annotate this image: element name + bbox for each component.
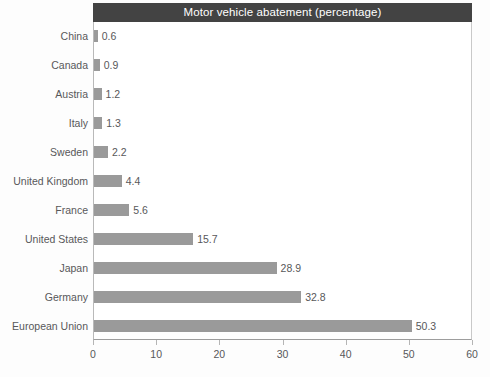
- bar: [94, 88, 102, 100]
- category-label: Japan: [0, 262, 88, 274]
- bar-row: 15.7: [94, 233, 473, 245]
- bar: [94, 291, 301, 303]
- bar-row: 1.2: [94, 88, 473, 100]
- category-label: Italy: [0, 117, 88, 129]
- bar-row: 2.2: [94, 146, 473, 158]
- bar-value-label: 1.2: [102, 88, 121, 100]
- x-tick-label: 50: [403, 348, 415, 360]
- bar-value-label: 1.3: [102, 117, 121, 129]
- bar-chart: Motor vehicle abatement (percentage) 0.6…: [0, 0, 490, 377]
- bar: [94, 262, 277, 274]
- category-label: Sweden: [0, 146, 88, 158]
- bar-row: 28.9: [94, 262, 473, 274]
- category-label: United States: [0, 233, 88, 245]
- chart-title: Motor vehicle abatement (percentage): [93, 3, 472, 22]
- bar: [94, 146, 108, 158]
- bar-value-label: 0.6: [98, 30, 117, 42]
- x-tick-mark: [472, 340, 473, 345]
- x-tick-mark: [283, 340, 284, 345]
- bar: [94, 175, 122, 187]
- bar: [94, 320, 412, 332]
- x-tick-mark: [156, 340, 157, 345]
- bar: [94, 117, 102, 129]
- bar-value-label: 0.9: [100, 59, 119, 71]
- bar-row: 1.3: [94, 117, 473, 129]
- x-tick-mark: [346, 340, 347, 345]
- bar-value-label: 50.3: [412, 320, 436, 332]
- bar-value-label: 15.7: [193, 233, 217, 245]
- bar-row: 4.4: [94, 175, 473, 187]
- category-label: Austria: [0, 88, 88, 100]
- bar-value-label: 4.4: [122, 175, 141, 187]
- x-axis: 0102030405060: [93, 340, 473, 370]
- bar-row: 5.6: [94, 204, 473, 216]
- x-tick-label: 10: [150, 348, 162, 360]
- plot-area: 0.60.91.21.32.24.45.615.728.932.850.3: [93, 22, 472, 340]
- category-axis-labels: ChinaCanadaAustriaItalySwedenUnited King…: [0, 22, 88, 340]
- category-label: Canada: [0, 59, 88, 71]
- x-tick-mark: [409, 340, 410, 345]
- bar-row: 0.9: [94, 59, 473, 71]
- bar: [94, 233, 193, 245]
- x-tick-mark: [93, 340, 94, 345]
- category-label: European Union: [0, 320, 88, 332]
- bar-value-label: 2.2: [108, 146, 127, 158]
- x-tick-label: 40: [340, 348, 352, 360]
- bar-row: 0.6: [94, 30, 473, 42]
- bar-row: 32.8: [94, 291, 473, 303]
- category-label: China: [0, 30, 88, 42]
- x-tick-label: 20: [213, 348, 225, 360]
- category-label: France: [0, 204, 88, 216]
- bar-row: 50.3: [94, 320, 473, 332]
- bar-value-label: 32.8: [301, 291, 325, 303]
- bar-value-label: 5.6: [129, 204, 148, 216]
- bar: [94, 204, 129, 216]
- x-tick-label: 0: [90, 348, 96, 360]
- x-tick-label: 60: [466, 348, 478, 360]
- category-label: United Kingdom: [0, 175, 88, 187]
- category-label: Germany: [0, 291, 88, 303]
- bar-value-label: 28.9: [277, 262, 301, 274]
- x-tick-label: 30: [277, 348, 289, 360]
- x-tick-mark: [219, 340, 220, 345]
